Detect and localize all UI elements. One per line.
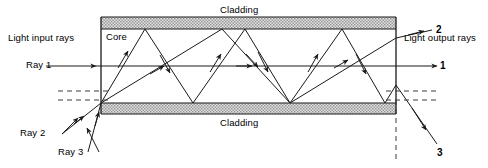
output-ray-3-number: 3 xyxy=(437,147,443,158)
ray-2-label: Ray 2 xyxy=(20,128,45,138)
ray-3-arrow-out xyxy=(412,108,426,130)
ray-1-label: Ray 1 xyxy=(26,60,51,70)
ray-3-input-segment xyxy=(88,103,101,152)
cladding-top-band xyxy=(101,17,396,29)
ray-2-leader xyxy=(62,118,78,134)
core-label: Core xyxy=(106,32,127,42)
ray-3-arrow-input xyxy=(95,112,99,126)
fiber-diagram-svg xyxy=(0,0,488,168)
output-ray-1-number: 1 xyxy=(440,60,446,71)
output-ray-2-number: 2 xyxy=(436,24,442,35)
light-input-rays-label: Light input rays xyxy=(8,33,74,43)
cladding-bottom-label: Cladding xyxy=(220,118,258,128)
cladding-bottom-band xyxy=(101,103,396,114)
ray-3-label: Ray 3 xyxy=(58,147,83,157)
fiber-optic-diagram: Cladding Cladding Core Light input rays … xyxy=(0,0,488,168)
cladding-top-label: Cladding xyxy=(220,5,258,15)
